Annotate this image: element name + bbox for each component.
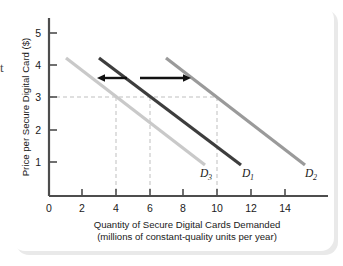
y-axis-title: Price per Secure Digital Card ($) [20, 38, 31, 177]
y-axis-tick-labels: 5 4 3 2 1 [35, 27, 41, 168]
x-tick-label-8: 8 [180, 202, 186, 214]
y-tick-label-2: 2 [35, 124, 41, 136]
demand-curve-chart: 5 4 3 2 1 0 2 4 6 8 10 12 14 D 3 [0, 0, 343, 266]
x-axis-title-line2: (millions of constant-quality units per … [97, 231, 277, 242]
curve-D3 [66, 58, 205, 165]
curve-label-D1-subscript: 1 [250, 173, 254, 182]
x-tick-label-10: 10 [211, 202, 223, 214]
reference-lines [49, 97, 217, 196]
y-tick-label-5: 5 [35, 27, 41, 39]
y-axis-ticks [49, 33, 57, 162]
x-tick-label-12: 12 [245, 202, 257, 214]
demand-curves [66, 58, 305, 165]
x-tick-label-2: 2 [79, 202, 85, 214]
figure-root: t [0, 0, 343, 266]
y-tick-label-1: 1 [35, 156, 41, 168]
x-axis-title-line1: Quantity of Secure Digital Cards Demande… [94, 219, 281, 230]
axes [49, 18, 328, 196]
y-tick-label-4: 4 [35, 59, 41, 71]
rightward-shift-arrow [140, 74, 191, 82]
x-axis-tick-labels: 2 4 6 8 10 12 14 [79, 202, 291, 214]
x-tick-label-14: 14 [279, 202, 291, 214]
x-tick-label-4: 4 [113, 202, 119, 214]
shift-annotations [97, 74, 191, 82]
x-tick-label-6: 6 [147, 202, 153, 214]
origin-label: 0 [46, 202, 52, 214]
curve-label-D3-subscript: 3 [207, 173, 212, 182]
curve-label-D2-subscript: 2 [313, 173, 317, 182]
curve-D1 [99, 58, 241, 165]
y-tick-label-3: 3 [35, 91, 41, 103]
chart-canvas: 5 4 3 2 1 0 2 4 6 8 10 12 14 D 3 [0, 0, 343, 266]
curve-D2 [166, 58, 305, 165]
